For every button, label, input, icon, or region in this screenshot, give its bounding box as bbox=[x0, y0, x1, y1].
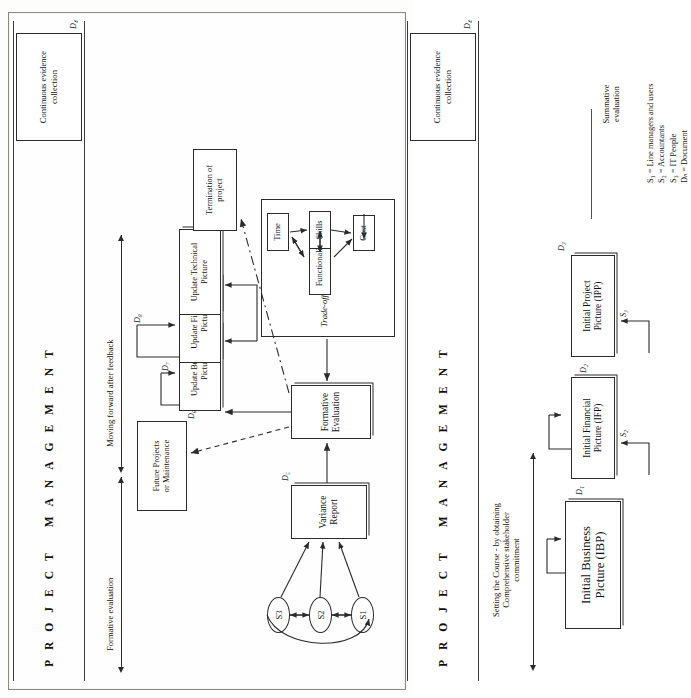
band-letter: G bbox=[437, 443, 449, 452]
phase1-connectors bbox=[9, 13, 405, 689]
scanned-figure-frame: P R O J E C T M A N A G E M E N T bbox=[8, 12, 406, 690]
evidence-box-label-2: Continuous evidence collection bbox=[432, 36, 453, 138]
band-letter: C bbox=[437, 571, 449, 579]
band-letter: J bbox=[437, 607, 449, 613]
band-letter: R bbox=[437, 642, 449, 650]
ifp-line1: Initial Financial bbox=[582, 398, 593, 458]
evidence-box-doc-bottom: D₄ bbox=[463, 20, 472, 29]
rotated-diagram-canvas: P R O J E C T M A N A G E M E N T bbox=[9, 13, 405, 689]
band-letter: T bbox=[437, 350, 449, 358]
initial-project-picture-box[interactable]: Initial Project Picture (IPP) bbox=[571, 255, 615, 357]
band-letter: M bbox=[437, 516, 449, 527]
summative-line1: Summative bbox=[601, 59, 611, 149]
setting-course-line1: Setting the Course - by obtaining bbox=[491, 455, 501, 665]
legend-item: S₃ = IT People bbox=[668, 83, 679, 183]
ibp-line1: Initial Business bbox=[579, 526, 593, 604]
initial-business-picture-box[interactable]: Initial Business Picture (IBP) bbox=[565, 501, 621, 629]
continuous-evidence-collection-box-bottom: Continuous evidence collection bbox=[410, 33, 476, 141]
ibp-doc-label: D₁ bbox=[575, 486, 584, 495]
band-letter: E bbox=[437, 589, 449, 597]
ibp-line2: Picture (IBP) bbox=[593, 532, 607, 599]
band2-bottom-rule bbox=[478, 21, 479, 681]
band2-top-rule bbox=[407, 21, 408, 681]
ipp-actor-label: S₃ bbox=[619, 310, 628, 317]
band-letter: N bbox=[437, 368, 449, 376]
band-project-management-bottom: P R O J E C T M A N A G E M E N T bbox=[407, 21, 481, 681]
setting-the-course-heading: Setting the Course - by obtaining Compre… bbox=[491, 455, 521, 665]
initial-financial-picture-box[interactable]: Initial Financial Picture (IFP) bbox=[571, 377, 615, 479]
ifp-doc-label: D₂ bbox=[579, 364, 588, 373]
setting-course-axis-line bbox=[533, 453, 534, 665]
band-letter: N bbox=[437, 480, 449, 488]
legend-item: S₂ = Accountants bbox=[656, 83, 667, 183]
ipp-line1: Initial Project bbox=[582, 280, 593, 331]
ipp-doc-label: D₃ bbox=[557, 242, 566, 251]
setting-course-arrow-right bbox=[530, 453, 536, 459]
legend-item: Dₙ = Document bbox=[679, 83, 690, 183]
setting-course-arrow-left bbox=[530, 665, 536, 671]
summative-evaluation-arrow-line bbox=[591, 109, 592, 219]
setting-course-line2: Comprehensive stakeholder bbox=[501, 455, 511, 665]
band-letter: O bbox=[437, 623, 449, 632]
band-letter: A bbox=[437, 462, 449, 470]
ipp-line2: Picture (IPP) bbox=[593, 282, 604, 331]
band-letter: P bbox=[437, 660, 449, 667]
ifp-actor-label: S₂ bbox=[619, 430, 628, 437]
band-letter: E bbox=[437, 386, 449, 394]
legend-block: S₁ = Line managers and users S₂ = Accoun… bbox=[645, 83, 691, 183]
band-letter: A bbox=[437, 498, 449, 506]
setting-course-line3: commitment bbox=[511, 455, 521, 665]
band-letter: T bbox=[437, 553, 449, 561]
ifp-line2: Picture (IFP) bbox=[593, 404, 604, 453]
summative-line2: evaluation bbox=[611, 59, 621, 149]
legend-item: S₁ = Line managers and users bbox=[645, 83, 656, 183]
summative-evaluation-label: Summative evaluation bbox=[601, 59, 621, 149]
band-letter: E bbox=[437, 425, 449, 433]
band-letters-bottom: P R O J E C T M A N A G E M E N T bbox=[429, 350, 457, 667]
band-letter: M bbox=[437, 404, 449, 415]
